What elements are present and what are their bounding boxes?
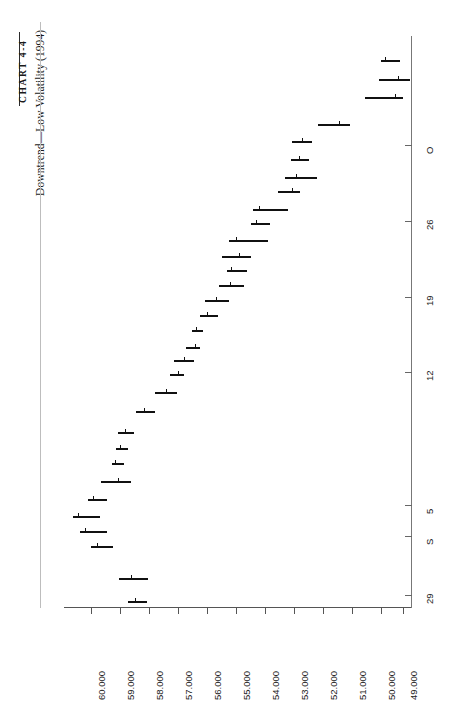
price-axis-tick-label: 58.000 (154, 671, 165, 700)
price-bar-range (200, 315, 218, 317)
price-bar-close-tick (118, 478, 119, 483)
date-axis-line (411, 36, 412, 608)
price-bar-close-tick (292, 188, 293, 193)
price-axis-line (64, 607, 412, 608)
date-axis-tick (405, 536, 412, 537)
date-axis-tick (405, 221, 412, 222)
price-bar-range (192, 330, 203, 332)
price-bar-range (128, 601, 147, 603)
price-axis-tick-label: 57.000 (183, 671, 194, 700)
price-axis-tick-label: 52.000 (328, 671, 339, 700)
price-bar-close-tick (166, 389, 167, 394)
date-axis-tick (405, 297, 412, 298)
price-bar-range (219, 285, 244, 287)
price-bar-close-tick (184, 357, 185, 362)
price-axis-tick-label: 56.000 (212, 671, 223, 700)
price-axis-tick-label: 55.000 (241, 671, 252, 700)
price-bar-range (365, 97, 403, 99)
price-bar-close-tick (125, 429, 126, 434)
price-bar-close-tick (385, 57, 386, 62)
price-axis-tick-label: 51.000 (357, 671, 368, 700)
date-axis-tick-label: 12 (424, 370, 435, 381)
page-margin-rule (40, 22, 41, 608)
price-bar-close-tick (236, 237, 237, 242)
price-bar-range (170, 374, 184, 376)
price-bar-range (318, 124, 350, 126)
page-title: CHART 4-4 (18, 40, 28, 103)
price-axis-tick (381, 608, 382, 614)
date-axis-tick (405, 595, 412, 596)
date-axis-tick-label: O (424, 147, 435, 154)
price-bar-close-tick (85, 528, 86, 533)
date-axis-tick (405, 372, 412, 373)
price-axis-tick (120, 608, 121, 614)
date-axis-tick-label: 29 (424, 593, 435, 604)
date-axis-tick (405, 145, 412, 146)
price-axis-tick (323, 608, 324, 614)
price-bar-close-tick (93, 496, 94, 501)
price-bar-close-tick (230, 282, 231, 287)
price-bar-range (136, 411, 155, 413)
price-bar-range (91, 546, 113, 548)
price-bar-close-tick (195, 344, 196, 349)
price-axis-tick-label: 50.000 (386, 671, 397, 700)
price-bar-range (88, 499, 107, 501)
price-bar-range (379, 79, 410, 81)
price-bar-range (186, 347, 200, 349)
price-axis-tick-label: 53.000 (299, 671, 310, 700)
price-bar-close-tick (135, 598, 136, 603)
price-bar-range (381, 60, 400, 62)
price-bar-close-tick (131, 575, 132, 580)
price-bar-close-tick (78, 513, 79, 518)
price-bar-range (229, 240, 268, 242)
price-axis-tick-label: 54.000 (270, 671, 281, 700)
price-bar-close-tick (207, 312, 208, 317)
price-bar-close-tick (256, 220, 257, 225)
price-bar-close-tick (144, 408, 145, 413)
price-bar-close-tick (231, 267, 232, 272)
date-axis-tick-label: 5 (424, 509, 435, 514)
date-axis-tick-label: 26 (424, 219, 435, 230)
price-axis-tick (207, 608, 208, 614)
price-axis-tick (352, 608, 353, 614)
price-bar-close-tick (299, 156, 300, 161)
price-axis-tick (178, 608, 179, 614)
price-bar-close-tick (178, 371, 179, 376)
price-axis-tick-label: 49.000 (408, 671, 419, 700)
price-bar-close-tick (120, 445, 121, 450)
date-axis-tick-label: 19 (424, 295, 435, 306)
price-bar-close-tick (216, 297, 217, 302)
price-bar-range (222, 256, 251, 258)
price-bar-close-tick (115, 460, 116, 465)
price-axis-tick (403, 608, 404, 614)
price-axis-tick (236, 608, 237, 614)
price-bar-close-tick (302, 138, 303, 143)
price-bar-range (101, 481, 131, 483)
price-bar-close-tick (259, 206, 260, 211)
price-bar-range (285, 177, 317, 179)
price-bar-range (112, 463, 124, 465)
date-axis-tick (405, 505, 412, 506)
chart-page: CHART 4-4 Downtrend—Low Volatility (1994… (0, 0, 458, 712)
date-axis-tick-label: S (424, 539, 435, 545)
price-axis-tick-label: 59.000 (125, 671, 136, 700)
price-bar-close-tick (395, 94, 396, 99)
price-bar-range (119, 578, 148, 580)
price-bar-close-tick (296, 174, 297, 179)
price-axis-tick (91, 608, 92, 614)
price-bar-range (116, 448, 128, 450)
price-axis-tick (149, 608, 150, 614)
price-bar-close-tick (398, 76, 399, 81)
price-bar-close-tick (97, 543, 98, 548)
price-axis-tick-label: 60.000 (96, 671, 107, 700)
price-bar-range (278, 191, 300, 193)
price-axis-tick (294, 608, 295, 614)
price-bar-close-tick (196, 327, 197, 332)
price-bar-range (251, 223, 270, 225)
price-bar-range (227, 270, 247, 272)
price-axis-tick (265, 608, 266, 614)
price-bar-close-tick (339, 121, 340, 126)
price-bar-close-tick (239, 253, 240, 258)
